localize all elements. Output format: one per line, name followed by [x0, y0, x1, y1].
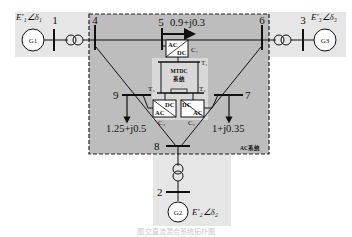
bus-3-label: 3: [300, 14, 306, 26]
bus-2-label: 2: [157, 186, 163, 198]
c2-label: C₂: [188, 119, 196, 127]
t3-label: T₃: [148, 85, 155, 93]
svg-text:AC: AC: [193, 109, 203, 116]
load-bus9: 1.25+j0.5: [106, 123, 146, 134]
bus-1-label: 1: [52, 14, 58, 26]
figure-caption: 图 交直流混合系统拓扑图: [137, 227, 216, 236]
g1-label: G1: [29, 37, 38, 45]
bus-5-label: 5: [158, 16, 164, 28]
g3-emf: E′₃∠δ₃: [310, 12, 337, 22]
g2-emf: E′₂∠δ₂: [191, 207, 218, 217]
svg-text:AC: AC: [155, 109, 165, 116]
mtdc-label: MTDC: [171, 68, 188, 74]
svg-text:AC: AC: [168, 41, 178, 48]
g3-label: G3: [321, 37, 330, 45]
svg-text:系统: 系统: [173, 75, 185, 83]
bus-9-label: 9: [113, 89, 119, 101]
bus-6-label: 6: [259, 14, 265, 26]
load-bus7: 1+j0.35: [212, 123, 244, 134]
bus-7-label: 7: [245, 89, 251, 101]
bus-8-label: 8: [154, 140, 160, 152]
svg-text:DC: DC: [182, 101, 192, 108]
power-system-diagram: G1 E′₁∠δ₁ 1 4 5 0.9+j0.3 6 3 G3 E′₃∠δ₃ A…: [0, 0, 352, 237]
c3-label: C₃: [158, 119, 166, 127]
g1-emf: E′₁∠δ₁: [15, 12, 42, 22]
svg-text:DC: DC: [165, 101, 175, 108]
g2-label: G2: [174, 209, 183, 217]
svg-text:DC: DC: [177, 49, 187, 56]
c1-label: C₁: [191, 46, 198, 54]
bus-4-label: 4: [92, 14, 98, 26]
ac-system-label: AC系统: [240, 144, 260, 152]
t1-label: T₁: [201, 59, 208, 67]
t2-label: T₂: [199, 85, 206, 93]
load-bus5: 0.9+j0.3: [170, 17, 205, 28]
